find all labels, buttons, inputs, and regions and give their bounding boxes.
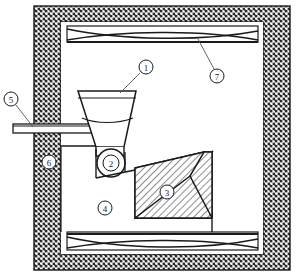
callout-6[interactable]: 6	[42, 155, 56, 169]
callout-4[interactable]: 4	[98, 201, 112, 215]
figure-root: 1 2 3 4 5 6 7	[0, 0, 296, 276]
feed-chute-body	[13, 124, 99, 133]
callout-7-label: 7	[215, 72, 220, 82]
callout-7[interactable]: 7	[210, 69, 224, 83]
callout-5-label: 5	[9, 95, 14, 105]
callout-1-label: 1	[144, 63, 149, 73]
feed-chute	[13, 124, 99, 133]
callout-2[interactable]: 2	[103, 155, 119, 171]
callout-4-label: 4	[103, 204, 108, 214]
figure-svg: 1 2 3 4 5 6 7	[0, 0, 296, 276]
callout-6-label: 6	[47, 158, 52, 168]
top-truss-beam	[67, 26, 258, 42]
callout-3-label: 3	[165, 188, 170, 198]
callout-3[interactable]: 3	[160, 185, 174, 199]
callout-5[interactable]: 5	[4, 92, 18, 106]
chamber-void	[61, 22, 263, 254]
callout-2-label: 2	[109, 159, 114, 169]
callout-1[interactable]: 1	[139, 60, 153, 74]
bottom-truss-beam	[67, 232, 258, 250]
